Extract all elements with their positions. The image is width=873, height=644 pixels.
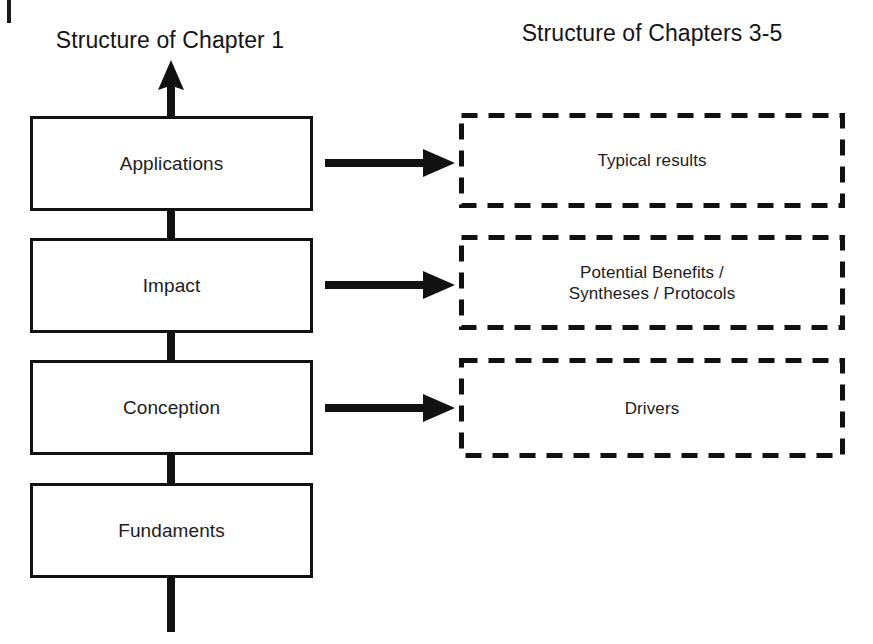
- process-box-label: Impact: [143, 274, 201, 297]
- process-box-label: Fundaments: [118, 519, 225, 542]
- right-column-title: Structure of Chapters 3-5: [459, 19, 845, 47]
- process-box-label: Conception: [123, 396, 220, 419]
- arrow-right-icon-2: [325, 268, 455, 302]
- left-column-title: Structure of Chapter 1: [0, 26, 340, 54]
- vertical-connector-3: [167, 453, 175, 485]
- process-box-conception[interactable]: Conception: [30, 360, 313, 455]
- process-box-applications[interactable]: Applications: [30, 116, 313, 211]
- result-box-typical-results[interactable]: Typical results: [459, 113, 845, 208]
- vertical-connector-bottom: [167, 576, 175, 632]
- arrow-right-icon-3: [325, 391, 455, 425]
- page-edge-tick: [7, 0, 11, 23]
- result-box-potential-benefits[interactable]: Potential Benefits / Syntheses / Protoco…: [459, 235, 845, 330]
- arrow-right-icon-1: [325, 146, 455, 180]
- vertical-connector-1: [167, 208, 175, 240]
- result-box-drivers[interactable]: Drivers: [459, 358, 845, 458]
- diagram-canvas: Structure of Chapter 1 Structure of Chap…: [0, 0, 873, 644]
- result-box-label: Drivers: [625, 398, 680, 419]
- vertical-connector-2: [167, 330, 175, 362]
- process-box-fundaments[interactable]: Fundaments: [30, 483, 313, 578]
- arrow-up-icon: [153, 60, 189, 118]
- result-box-label: Typical results: [597, 150, 706, 171]
- process-box-impact[interactable]: Impact: [30, 238, 313, 333]
- process-box-label: Applications: [120, 152, 224, 175]
- result-box-label: Potential Benefits / Syntheses / Protoco…: [569, 262, 736, 304]
